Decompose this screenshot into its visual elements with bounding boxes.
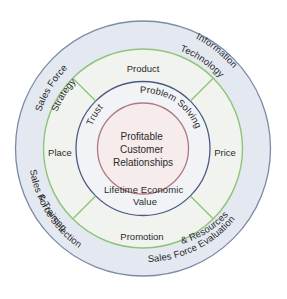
price-label: Price (214, 147, 236, 158)
product-label: Product (127, 63, 160, 74)
sales-force-diagram: Profitable Customer Relationships Trust … (0, 0, 287, 299)
core-label: Profitable Customer Relationships (113, 131, 173, 168)
core-line-3: Relationships (113, 157, 173, 168)
core-line-2: Customer (120, 144, 164, 155)
place-label: Place (48, 147, 72, 158)
core-line-1: Profitable (120, 131, 163, 142)
promotion-label: Promotion (120, 231, 163, 242)
